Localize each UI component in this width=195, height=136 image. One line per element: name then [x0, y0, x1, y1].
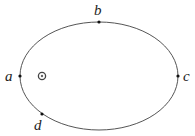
label-a: a — [5, 68, 13, 84]
label-c: c — [183, 68, 190, 84]
point-d — [40, 112, 43, 115]
point-a — [18, 74, 21, 77]
orbit-diagram: a b c d — [0, 0, 195, 136]
point-c — [176, 74, 179, 77]
label-b: b — [94, 2, 102, 18]
label-d: d — [34, 117, 42, 133]
sun-icon — [38, 72, 45, 79]
orbit-ellipse — [20, 22, 178, 130]
diagram-canvas: a b c d — [0, 0, 195, 136]
point-b — [97, 20, 100, 23]
